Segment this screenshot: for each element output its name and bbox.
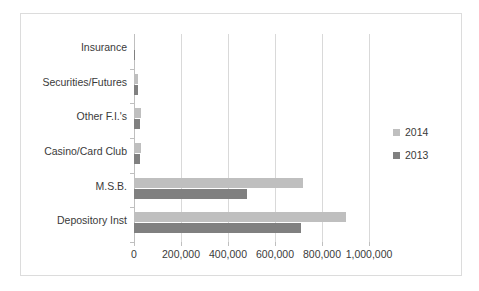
- category-label: Securities/Futures: [42, 76, 127, 89]
- category-label: Casino/Card Club: [44, 145, 127, 158]
- category-label: Other F.I.'s: [77, 110, 127, 123]
- x-axis-tick: [228, 242, 229, 246]
- bar-2014: [134, 108, 141, 118]
- x-axis-tick-label: 0: [131, 248, 137, 260]
- x-axis-tick-label: 200,000: [162, 248, 200, 260]
- category-row: Other F.I.'s: [134, 103, 369, 138]
- x-axis-tick-label: 400,000: [209, 248, 247, 260]
- bar-2013: [134, 85, 138, 95]
- legend-swatch-icon: [393, 129, 400, 136]
- bar-2013: [134, 119, 140, 129]
- legend-item-2013[interactable]: 2013: [393, 149, 428, 161]
- gridline: [369, 34, 370, 242]
- category-label: Insurance: [81, 41, 127, 54]
- x-axis-tick: [322, 242, 323, 246]
- x-axis-tick-label: 800,000: [303, 248, 341, 260]
- category-row: Depository Inst: [134, 207, 369, 242]
- plot-area: InsuranceSecurities/FuturesOther F.I.'sC…: [134, 34, 369, 242]
- category-row: M.S.B.: [134, 173, 369, 208]
- x-axis-tick: [275, 242, 276, 246]
- legend-item-2014[interactable]: 2014: [393, 126, 428, 138]
- category-label: Depository Inst: [57, 214, 127, 227]
- category-row: Securities/Futures: [134, 69, 369, 104]
- chart-legend: 20142013: [393, 126, 428, 172]
- x-axis-tick-label: 1,000,000: [346, 248, 393, 260]
- bar-2014: [134, 212, 346, 222]
- bar-2013: [134, 154, 140, 164]
- legend-label: 2014: [405, 126, 428, 138]
- legend-label: 2013: [405, 149, 428, 161]
- bar-2014: [134, 143, 141, 153]
- x-axis-tick: [181, 242, 182, 246]
- category-row: Insurance: [134, 34, 369, 69]
- bar-2014: [134, 178, 303, 188]
- legend-swatch-icon: [393, 152, 400, 159]
- x-axis-tick: [369, 242, 370, 246]
- bar-2013: [134, 223, 301, 233]
- chart-container: InsuranceSecurities/FuturesOther F.I.'sC…: [20, 13, 462, 276]
- category-label: M.S.B.: [95, 180, 127, 193]
- bar-2013: [134, 189, 247, 199]
- x-axis-tick-label: 600,000: [256, 248, 294, 260]
- x-axis-tick: [134, 242, 135, 246]
- bar-2014: [134, 74, 138, 84]
- category-row: Casino/Card Club: [134, 138, 369, 173]
